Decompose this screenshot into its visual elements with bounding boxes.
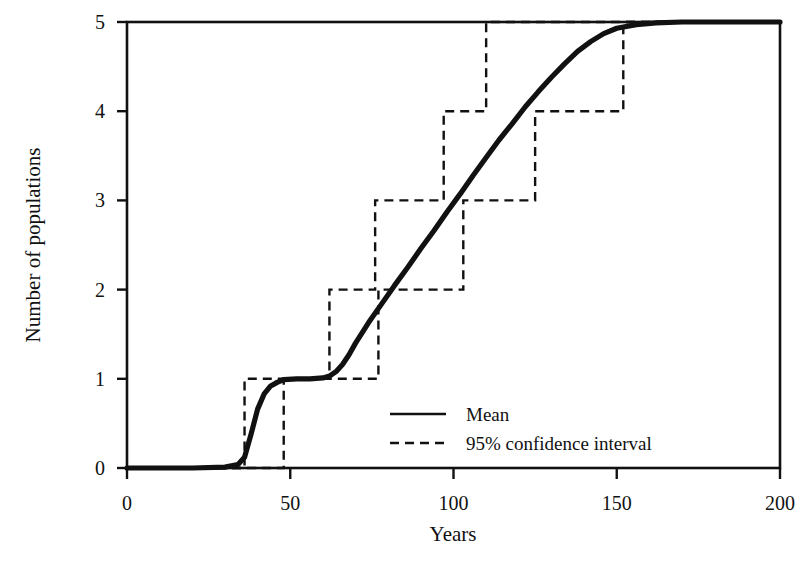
x-tick-label: 150 xyxy=(602,492,632,514)
y-tick-label: 5 xyxy=(95,11,105,33)
y-tick-label: 2 xyxy=(95,279,105,301)
x-tick-label: 100 xyxy=(439,492,469,514)
x-axis-title: Years xyxy=(430,522,477,546)
chart-canvas: 012345 050100150200 Years Number of popu… xyxy=(0,0,801,575)
figure-background xyxy=(0,0,801,575)
x-tick-label: 50 xyxy=(280,492,300,514)
y-tick-label: 4 xyxy=(95,100,105,122)
y-tick-label: 3 xyxy=(95,189,105,211)
y-axis-title: Number of populations xyxy=(21,148,45,343)
x-tick-label: 200 xyxy=(765,492,795,514)
y-tick-label: 0 xyxy=(95,457,105,479)
legend-label-ci: 95% confidence interval xyxy=(466,433,652,454)
x-tick-label: 0 xyxy=(122,492,132,514)
legend-label-mean: Mean xyxy=(466,404,510,425)
chart-figure: 012345 050100150200 Years Number of popu… xyxy=(0,0,801,575)
y-tick-label: 1 xyxy=(95,368,105,390)
